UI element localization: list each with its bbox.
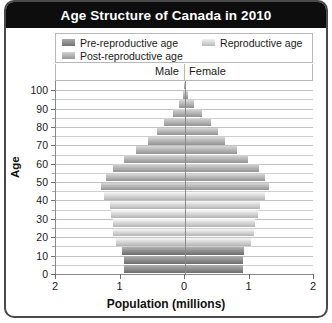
y-tick-major [51, 145, 55, 146]
bar-female-5-9 [185, 256, 243, 264]
bar-female-50-54 [185, 174, 265, 182]
bar-male-5-9 [124, 256, 185, 264]
y-tick-minor [52, 265, 55, 266]
bar-female-75-79 [185, 128, 218, 136]
x-tick-label: 1 [116, 280, 122, 292]
bar-female-70-74 [185, 137, 225, 145]
y-tick-minor [52, 210, 55, 211]
bar-male-0-4 [124, 265, 185, 273]
bar-male-55-59 [113, 164, 185, 172]
legend-swatch-post-reproductive-icon [62, 52, 75, 59]
legend-swatch-pre-reproductive-icon [62, 39, 75, 46]
y-tick-label: 20 [36, 231, 48, 243]
bar-female-25-29 [185, 219, 255, 227]
bar-male-70-74 [148, 137, 185, 145]
y-tick-major [51, 200, 55, 201]
x-tick-label: 2 [310, 280, 316, 292]
y-tick-major [51, 219, 55, 220]
y-tick-minor [52, 136, 55, 137]
x-tick [249, 274, 250, 279]
bar-male-25-29 [113, 219, 185, 227]
female-column-label: Female [189, 65, 226, 77]
y-tick-label: 50 [36, 176, 48, 188]
y-tick-minor [52, 118, 55, 119]
legend-swatch-reproductive-icon [202, 39, 215, 46]
legend-row-2: Post-reproductive age [62, 49, 308, 62]
x-tick [184, 274, 185, 279]
bar-male-60-64 [124, 155, 185, 163]
chart-figure: Age Structure of Canada in 2010 Pre-repr… [0, 0, 332, 323]
legend-item-reproductive: Reproductive age [202, 37, 302, 49]
y-tick-label: 30 [36, 213, 48, 225]
y-tick-minor [52, 228, 55, 229]
bar-female-90-94 [185, 100, 194, 108]
bar-male-20-24 [113, 229, 185, 237]
y-tick-label: 10 [36, 250, 48, 262]
bar-female-10-14 [185, 247, 244, 255]
bar-female-60-64 [185, 155, 248, 163]
y-tick-major [51, 109, 55, 110]
y-tick-major [51, 182, 55, 183]
bar-female-85-89 [185, 109, 202, 117]
y-tick-minor [52, 246, 55, 247]
bar-male-65-69 [136, 146, 185, 154]
bar-male-15-19 [116, 238, 185, 246]
bar-female-80-84 [185, 118, 211, 126]
y-tick-label: 70 [36, 139, 48, 151]
legend-label-reproductive: Reproductive age [220, 37, 302, 49]
chart-legend: Pre-reproductive age Reproductive age Po… [55, 33, 313, 63]
y-tick-major [51, 256, 55, 257]
y-tick-label: 80 [36, 121, 48, 133]
male-column-label: Male [155, 65, 179, 77]
bar-female-40-44 [185, 192, 265, 200]
bar-female-55-59 [185, 164, 259, 172]
bar-female-0-4 [185, 265, 243, 273]
y-tick-minor [52, 99, 55, 100]
y-tick-minor [52, 191, 55, 192]
x-tick-label: 1 [245, 280, 251, 292]
x-tick [55, 274, 56, 279]
y-tick-label: 90 [36, 103, 48, 115]
bar-male-80-84 [164, 118, 185, 126]
y-tick-minor [52, 155, 55, 156]
plot-area [55, 81, 313, 274]
x-tick [120, 274, 121, 279]
bar-female-15-19 [185, 238, 251, 246]
bar-male-10-14 [122, 247, 185, 255]
x-tick-label: 2 [52, 280, 58, 292]
bar-male-30-34 [111, 210, 185, 218]
sex-header-strip: Male Female [55, 64, 313, 81]
bar-female-65-69 [185, 146, 237, 154]
y-tick-major [51, 237, 55, 238]
bar-male-85-89 [173, 109, 185, 117]
chart-card: Age Structure of Canada in 2010 Pre-repr… [4, 0, 328, 318]
legend-label-post-reproductive: Post-reproductive age [80, 50, 183, 62]
bar-male-35-39 [110, 201, 185, 209]
bar-male-75-79 [157, 128, 185, 136]
legend-item-post-reproductive: Post-reproductive age [62, 50, 183, 62]
bar-female-30-34 [185, 210, 258, 218]
legend-label-pre-reproductive: Pre-reproductive age [80, 37, 178, 49]
bar-male-40-44 [104, 192, 185, 200]
y-tick-label: 0 [42, 268, 48, 280]
center-axis-line [185, 81, 186, 274]
bar-male-45-49 [101, 183, 185, 191]
chart-title-bar: Age Structure of Canada in 2010 [6, 2, 326, 28]
y-tick-major [51, 90, 55, 91]
chart-title: Age Structure of Canada in 2010 [61, 8, 272, 23]
bar-male-50-54 [106, 174, 185, 182]
y-tick-major [51, 164, 55, 165]
x-tick [313, 274, 314, 279]
y-tick-major [51, 127, 55, 128]
sex-header-divider [184, 64, 185, 80]
legend-item-pre-reproductive: Pre-reproductive age [62, 37, 178, 49]
bar-female-20-24 [185, 229, 254, 237]
legend-row-1: Pre-reproductive age Reproductive age [62, 36, 308, 49]
bar-female-45-49 [185, 183, 269, 191]
bar-female-35-39 [185, 201, 260, 209]
x-axis-title: Population (millions) [6, 297, 326, 311]
y-axis-title: Age [9, 156, 21, 178]
y-tick-minor [52, 173, 55, 174]
x-tick-label: 0 [181, 280, 187, 292]
y-tick-label: 60 [36, 158, 48, 170]
